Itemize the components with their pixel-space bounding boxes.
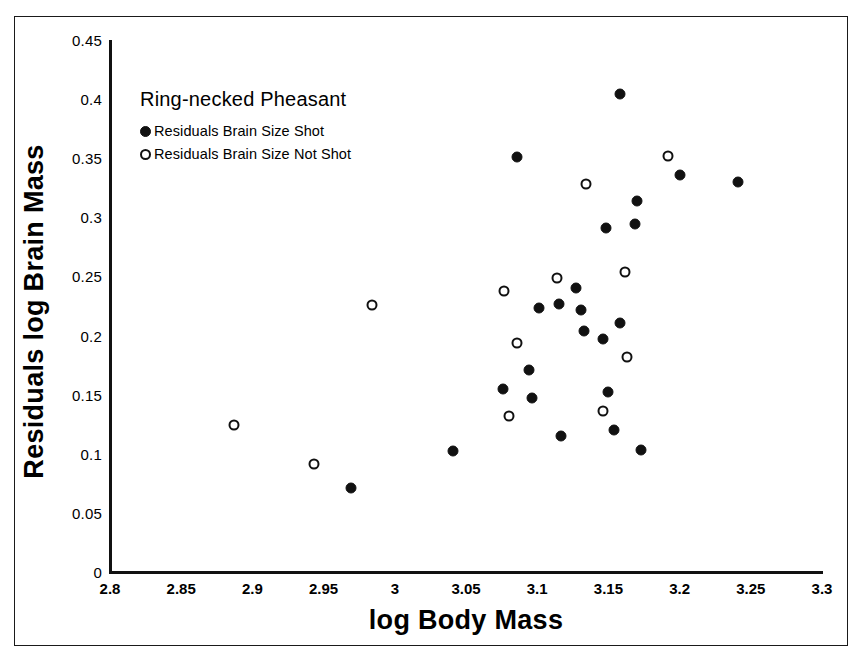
x-tick-2.85: 2.85 [167, 580, 196, 597]
y-tick-0.45: 0.45 [72, 32, 102, 49]
data-point [732, 176, 743, 187]
x-tick-3.25: 3.25 [736, 580, 765, 597]
y-tick-0.35: 0.35 [72, 150, 102, 167]
filled-circle-icon [140, 126, 151, 137]
x-tick-3.2: 3.2 [669, 580, 690, 597]
y-axis-tick-labels: 00.050.10.150.20.250.30.350.40.45 [34, 0, 102, 669]
data-point [597, 406, 608, 417]
data-point [448, 446, 459, 457]
data-point [308, 459, 319, 470]
legend-item-not-shot: Residuals Brain Size Not Shot [140, 146, 470, 162]
data-point [636, 445, 647, 456]
data-point [552, 272, 563, 283]
data-point [556, 431, 567, 442]
y-tick-0.4: 0.4 [81, 91, 102, 108]
y-tick-0.1: 0.1 [81, 445, 102, 462]
data-point [597, 334, 608, 345]
open-circle-icon [140, 149, 151, 160]
x-tick-3.15: 3.15 [594, 580, 623, 597]
data-point [576, 304, 587, 315]
legend-item-shot: Residuals Brain Size Shot [140, 123, 470, 139]
data-point [614, 89, 625, 100]
data-point [512, 337, 523, 348]
data-point [523, 364, 534, 375]
data-point [614, 317, 625, 328]
data-point [603, 387, 614, 398]
data-point [499, 285, 510, 296]
y-tick-0.15: 0.15 [72, 386, 102, 403]
x-tick-3.3: 3.3 [812, 580, 833, 597]
data-point [579, 325, 590, 336]
data-point [600, 222, 611, 233]
x-tick-2.95: 2.95 [309, 580, 338, 597]
figure-container: Residuals log Brain Mass log Body Mass 0… [0, 0, 868, 669]
data-point [621, 351, 632, 362]
data-point [498, 383, 509, 394]
data-point [553, 298, 564, 309]
legend-label-shot: Residuals Brain Size Shot [154, 123, 324, 139]
x-tick-2.8: 2.8 [100, 580, 121, 597]
data-point [609, 425, 620, 436]
data-point [631, 195, 642, 206]
x-tick-3.1: 3.1 [527, 580, 548, 597]
legend-title: Ring-necked Pheasant [140, 88, 470, 111]
x-axis-label: log Body Mass [110, 605, 822, 636]
data-point [620, 266, 631, 277]
data-point [526, 393, 537, 404]
data-point [580, 179, 591, 190]
data-point [570, 283, 581, 294]
x-tick-3: 3 [391, 580, 399, 597]
data-point [503, 410, 514, 421]
data-point [512, 152, 523, 163]
y-tick-0.2: 0.2 [81, 327, 102, 344]
legend: Ring-necked Pheasant Residuals Brain Siz… [140, 88, 470, 162]
x-tick-2.9: 2.9 [242, 580, 263, 597]
y-tick-0.25: 0.25 [72, 268, 102, 285]
data-point [533, 303, 544, 314]
x-tick-3.05: 3.05 [451, 580, 480, 597]
data-point [367, 299, 378, 310]
data-point [674, 169, 685, 180]
y-tick-0.3: 0.3 [81, 209, 102, 226]
data-point [228, 420, 239, 431]
data-point [663, 150, 674, 161]
x-axis-tick-labels: 2.82.852.92.9533.053.13.153.23.253.3 [0, 580, 868, 604]
legend-label-not-shot: Residuals Brain Size Not Shot [154, 146, 351, 162]
y-tick-0.05: 0.05 [72, 504, 102, 521]
data-point [345, 483, 356, 494]
data-point [630, 219, 641, 230]
y-tick-0: 0 [93, 564, 102, 581]
